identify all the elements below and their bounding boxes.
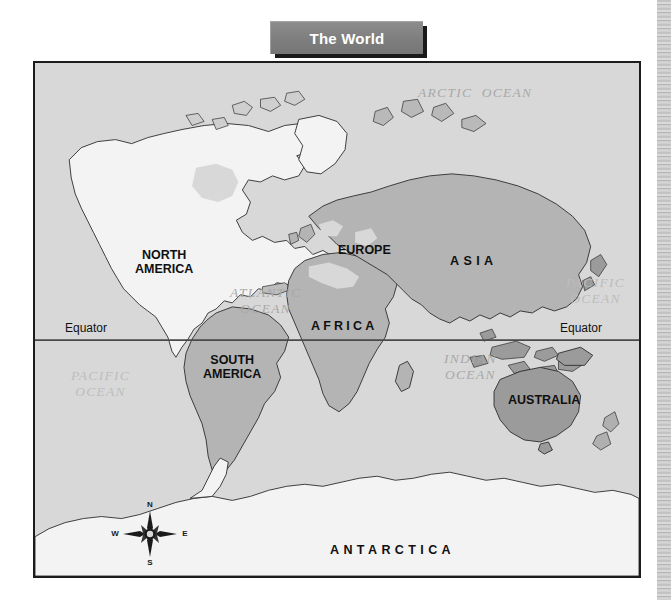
world-map: .ocean { fill:#d8d8d8; } .lightland { fi…	[33, 61, 641, 578]
page-title: The World	[310, 30, 385, 47]
compass-rose: N E S W	[107, 495, 193, 569]
compass-label-east: E	[182, 529, 188, 538]
title-banner: The World	[270, 21, 423, 54]
scan-edge-artifact	[648, 0, 671, 600]
map-page: The World .ocean { fill:#d8d8d8; } .ligh…	[0, 0, 671, 600]
compass-label-north: N	[147, 500, 153, 509]
scan-edge-gap	[648, 0, 657, 600]
compass-label-south: S	[147, 558, 153, 567]
compass-label-west: W	[111, 529, 119, 538]
